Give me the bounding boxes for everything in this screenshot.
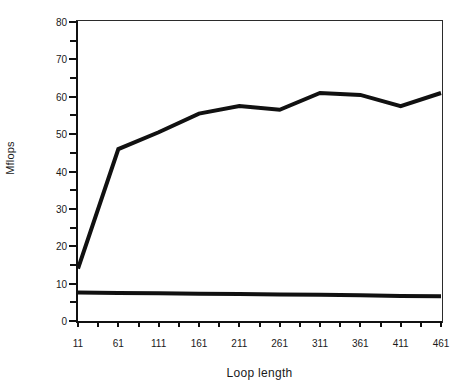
x-axis-title: Loop length	[76, 366, 443, 380]
series-line-a	[78, 293, 441, 297]
y-tick-20	[69, 245, 76, 247]
y-tick-label-30: 30	[56, 203, 67, 214]
y-tick-70	[69, 58, 76, 60]
chart-figure: Mflops 01020304050607080 116111116121126…	[0, 0, 462, 391]
x-tick-label-361: 361	[352, 338, 369, 349]
y-tick-label-10: 10	[56, 278, 67, 289]
y-tick-50	[69, 133, 76, 135]
y-tick-label-0: 0	[61, 316, 67, 327]
y-tick-0	[69, 320, 76, 322]
x-tick-label-461: 461	[433, 338, 450, 349]
y-axis-title: Mflops	[4, 118, 16, 198]
x-tick-label-61: 61	[113, 338, 124, 349]
x-tick-label-161: 161	[191, 338, 208, 349]
x-tick-label-211: 211	[231, 338, 247, 349]
y-tick-40	[69, 171, 76, 173]
x-tick-label-261: 261	[271, 338, 288, 349]
y-tick-label-20: 20	[56, 241, 67, 252]
series-layer	[76, 20, 443, 323]
plot-area: 01020304050607080 1161111161211261311361…	[76, 20, 443, 323]
x-tick-label-411: 411	[393, 338, 409, 349]
x-tick-label-111: 111	[151, 338, 166, 349]
y-tick-30	[69, 208, 76, 210]
x-tick-label-311: 311	[312, 338, 328, 349]
y-tick-label-80: 80	[56, 17, 67, 28]
y-tick-label-50: 50	[56, 129, 67, 140]
y-tick-80	[69, 21, 76, 23]
y-tick-label-70: 70	[56, 54, 67, 65]
y-tick-label-60: 60	[56, 91, 67, 102]
x-tick-label-11: 11	[73, 338, 83, 349]
y-tick-60	[69, 96, 76, 98]
y-tick-label-40: 40	[56, 166, 67, 177]
y-tick-10	[69, 283, 76, 285]
series-line-b	[78, 93, 441, 269]
